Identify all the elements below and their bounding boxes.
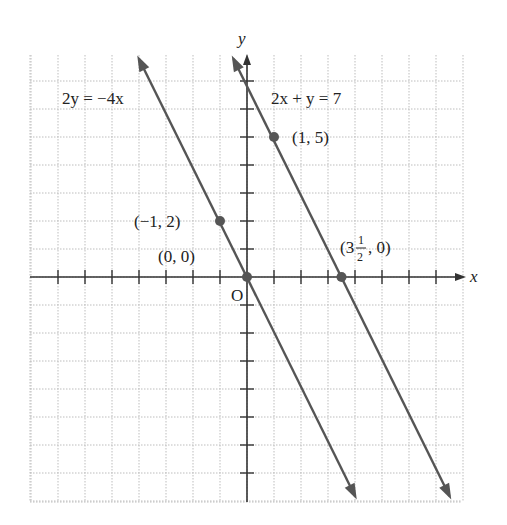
data-point (242, 272, 252, 282)
x-axis-label: x (469, 267, 478, 286)
data-point (215, 216, 225, 226)
svg-text:2: 2 (357, 250, 363, 264)
y-axis-arrow-icon (243, 54, 251, 65)
point-label-1-5: (1, 5) (292, 128, 329, 147)
arrowhead-down-icon (439, 483, 451, 500)
equation-label-2: 2x + y = 7 (271, 89, 342, 108)
svg-text:, 0): , 0) (368, 238, 391, 257)
coordinate-graph: y x O 2y = −4x 2x + y = 7 (−1, 2) (0, 0)… (0, 0, 507, 525)
y-axis-label: y (236, 29, 246, 48)
svg-text:(3: (3 (340, 238, 354, 257)
point-label-origin: (0, 0) (158, 247, 195, 266)
svg-text:1: 1 (358, 233, 364, 247)
data-point (269, 132, 279, 142)
x-axis-arrow-icon (455, 273, 466, 281)
point-label-3half-0: (3 1 2 , 0) (340, 233, 391, 264)
data-point (337, 272, 347, 282)
origin-label: O (231, 286, 243, 305)
arrowhead-up-icon (137, 55, 149, 72)
equation-label-1: 2y = −4x (62, 89, 124, 108)
point-label-neg1-2: (−1, 2) (134, 212, 180, 231)
arrowhead-up-icon (232, 55, 244, 72)
